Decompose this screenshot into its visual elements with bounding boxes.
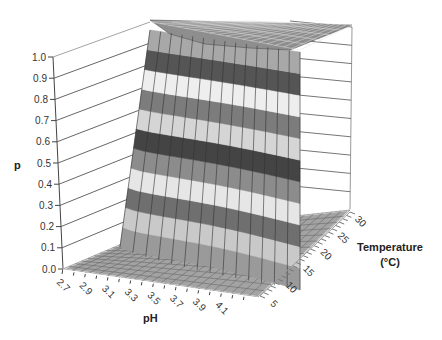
z-tick-label: 0.1 — [41, 242, 55, 253]
z-tick-label: 0.3 — [39, 200, 53, 211]
z-tick-label: 0.7 — [35, 115, 49, 126]
z-axis-title: p — [14, 159, 21, 171]
y-axis-title-line2: (°C) — [380, 256, 400, 268]
x-axis-title: pH — [143, 312, 158, 324]
z-tick-label: 0.8 — [34, 94, 48, 105]
y-tick-label: 20 — [318, 246, 334, 262]
x-tick-label: 3.1 — [100, 283, 118, 301]
x-tick-label: 3.7 — [168, 293, 186, 311]
surface-chart: 0.00.10.20.30.40.50.60.70.80.91.0 2.72.9… — [0, 0, 442, 340]
x-tick-label: 3.9 — [191, 296, 209, 314]
y-tick-label: 25 — [336, 230, 352, 246]
x-tick-label: 4.1 — [213, 299, 231, 317]
y-tick-label: 5 — [268, 298, 280, 310]
z-tick-label: 0.4 — [38, 179, 52, 190]
x-tick-label: 3.5 — [145, 289, 163, 307]
surface-bands — [120, 30, 300, 290]
z-tick-label: 0.6 — [36, 136, 50, 147]
z-tick-label: 0.2 — [40, 221, 54, 232]
x-tick-label: 2.7 — [55, 276, 73, 294]
z-tick-label: 0.0 — [42, 264, 56, 275]
z-tick-label: 1.0 — [32, 52, 46, 63]
y-axis-title-line1: Temperature — [357, 241, 423, 253]
y-tick-label: 30 — [353, 213, 369, 229]
z-tick-label: 0.5 — [37, 158, 51, 169]
z-tick-label: 0.9 — [33, 73, 47, 84]
x-tick-label: 2.9 — [77, 280, 95, 298]
x-tick-label: 3.3 — [123, 286, 141, 304]
y-tick-label: 15 — [301, 263, 317, 279]
